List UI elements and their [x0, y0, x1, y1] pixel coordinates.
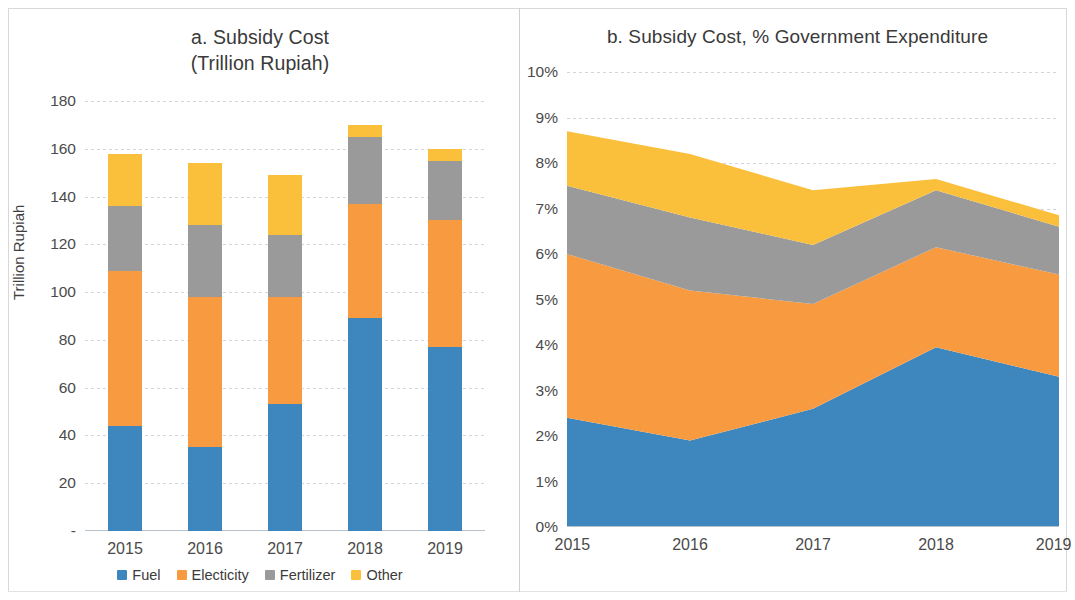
y-axis-tick-label: 100	[50, 283, 76, 301]
x-axis-tick-label: 2017	[267, 540, 303, 558]
panel-a-subsidy-cost: a. Subsidy Cost (Trillion Rupiah) Trilli…	[0, 0, 520, 600]
bar-segment-electicity[interactable]	[188, 297, 222, 448]
y-axis-tick-label: 80	[59, 331, 76, 349]
bar-column[interactable]	[188, 163, 222, 531]
panel-b-subsidy-share: b. Subsidy Cost, % Government Expenditur…	[520, 0, 1075, 600]
legend-swatch-icon	[351, 570, 361, 580]
y-axis-tick-label: 40	[59, 426, 76, 444]
legend-label: Other	[366, 567, 402, 583]
gridline	[85, 149, 485, 150]
y-axis-tick-label: 3%	[536, 382, 558, 400]
y-axis-tick-label: 6%	[536, 245, 558, 263]
figure-container: a. Subsidy Cost (Trillion Rupiah) Trilli…	[0, 0, 1075, 600]
bar-segment-other[interactable]	[268, 175, 302, 235]
panel-a-title: a. Subsidy Cost (Trillion Rupiah)	[0, 24, 520, 77]
bar-segment-fertilizer[interactable]	[108, 206, 142, 271]
x-axis-tick-label: 2015	[107, 540, 143, 558]
x-axis-tick-label: 2017	[795, 536, 831, 554]
y-axis-tick-label: 160	[50, 140, 76, 158]
panel-b-legend: FuelElecticityFertilizerOther	[1040, 567, 1075, 583]
y-axis-tick-label: 0%	[536, 518, 558, 536]
legend-swatch-icon	[177, 570, 187, 580]
panel-a-title-line2: (Trillion Rupiah)	[0, 50, 520, 76]
legend-item[interactable]: Fuel	[117, 567, 160, 583]
panel-a-title-line1: a. Subsidy Cost	[0, 24, 520, 50]
y-axis-tick-label: 8%	[536, 154, 558, 172]
y-axis-tick-label: 180	[50, 92, 76, 110]
y-axis-tick-label: 1%	[536, 473, 558, 491]
bar-segment-fertilizer[interactable]	[188, 225, 222, 297]
legend-swatch-icon	[265, 570, 275, 580]
y-axis-tick-label: 5%	[536, 291, 558, 309]
legend-label: Fertilizer	[280, 567, 336, 583]
x-axis-tick-label: 2019	[427, 540, 463, 558]
x-axis-tick-label: 2018	[918, 536, 954, 554]
y-axis-tick-label: 20	[59, 474, 76, 492]
x-axis-tick-label: 2016	[187, 540, 223, 558]
x-axis-tick-label: 2015	[555, 536, 591, 554]
gridline	[85, 101, 485, 102]
y-axis-tick-label: 10%	[527, 63, 558, 81]
y-axis-tick-label: -	[71, 522, 76, 540]
bar-segment-fuel[interactable]	[348, 318, 382, 531]
bar-segment-electicity[interactable]	[268, 297, 302, 405]
x-axis-tick-label: 2016	[672, 536, 708, 554]
legend-label: Electicity	[192, 567, 249, 583]
y-axis-tick-label: 2%	[536, 427, 558, 445]
bar-segment-other[interactable]	[108, 154, 142, 207]
panel-b-plot-area: 0%1%2%3%4%5%6%7%8%9%10% 2015201620172018…	[567, 72, 1059, 527]
x-axis-tick-label: 2018	[347, 540, 383, 558]
legend-item[interactable]: Electicity	[177, 567, 249, 583]
bar-segment-fuel[interactable]	[108, 426, 142, 531]
bar-column[interactable]	[268, 175, 302, 531]
legend-swatch-icon	[117, 570, 127, 580]
bar-column[interactable]	[108, 154, 142, 531]
y-axis-tick-label: 4%	[536, 336, 558, 354]
legend-item[interactable]: Other	[351, 567, 402, 583]
panel-a-y-axis-title: Trillion Rupiah	[10, 205, 27, 300]
legend-item[interactable]: Fertilizer	[265, 567, 336, 583]
legend-label: Fuel	[132, 567, 160, 583]
panel-b-title: b. Subsidy Cost, % Government Expenditur…	[520, 24, 1075, 50]
bar-segment-other[interactable]	[348, 125, 382, 137]
bar-segment-electicity[interactable]	[348, 204, 382, 319]
panel-a-legend: FuelElecticityFertilizerOther	[0, 567, 520, 583]
y-axis-tick-label: 120	[50, 235, 76, 253]
bar-segment-fertilizer[interactable]	[268, 235, 302, 297]
bar-segment-fuel[interactable]	[428, 347, 462, 531]
y-axis-tick-label: 7%	[536, 200, 558, 218]
y-axis-tick-label: 60	[59, 379, 76, 397]
bar-segment-other[interactable]	[428, 149, 462, 161]
bar-segment-electicity[interactable]	[108, 271, 142, 426]
bar-segment-fertilizer[interactable]	[428, 161, 462, 221]
x-axis-tick-label: 2019	[1036, 536, 1072, 554]
bar-column[interactable]	[348, 125, 382, 531]
panel-a-plot-area: -20406080100120140160180 201520162017201…	[85, 101, 485, 531]
y-axis-tick-label: 140	[50, 188, 76, 206]
bar-column[interactable]	[428, 149, 462, 531]
bar-segment-fuel[interactable]	[268, 404, 302, 531]
panel-b-area-series	[567, 72, 1059, 527]
bar-segment-electicity[interactable]	[428, 220, 462, 347]
bar-segment-other[interactable]	[188, 163, 222, 225]
bar-segment-fuel[interactable]	[188, 447, 222, 531]
bar-segment-fertilizer[interactable]	[348, 137, 382, 204]
panel-b-axis-baseline	[567, 526, 1059, 527]
y-axis-tick-label: 9%	[536, 109, 558, 127]
